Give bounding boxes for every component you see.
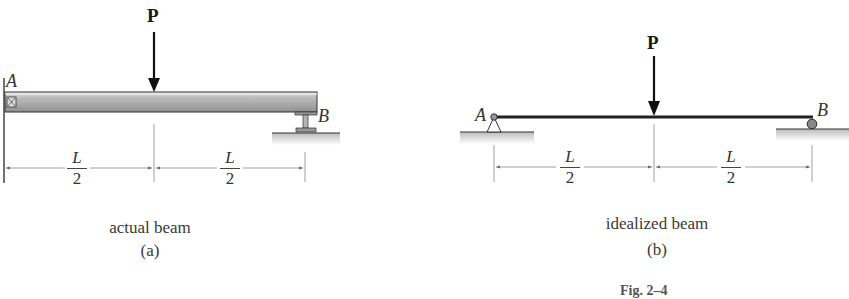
fraction-denominator: 2 bbox=[65, 170, 89, 188]
fraction-numerator: L bbox=[65, 149, 89, 167]
load-arrow-head-icon-b bbox=[648, 101, 660, 116]
panel-b-idealized-beam bbox=[460, 56, 849, 182]
dimension-fraction-a-right: L 2 bbox=[218, 149, 242, 188]
ground-shadow-left bbox=[460, 132, 534, 144]
i-beam-support-icon bbox=[295, 112, 317, 132]
dimension-fraction-b-left: L 2 bbox=[558, 148, 582, 187]
fraction-numerator: L bbox=[218, 149, 242, 167]
dimension-fraction-a-left: L 2 bbox=[65, 149, 89, 188]
caption-b: idealized beam bbox=[557, 214, 757, 234]
ground-shadow bbox=[272, 133, 340, 145]
point-a-label-a: A bbox=[6, 71, 17, 92]
pin-joint-icon bbox=[491, 114, 497, 120]
figure-label: Fig. 2–4 bbox=[620, 283, 667, 299]
dimension-fraction-b-right: L 2 bbox=[719, 148, 743, 187]
fraction-denominator: 2 bbox=[558, 169, 582, 187]
load-arrow-head-icon bbox=[148, 78, 160, 92]
point-a-label-b: A bbox=[475, 105, 486, 126]
fraction-numerator: L bbox=[558, 148, 582, 166]
sublabel-b: (b) bbox=[557, 240, 757, 260]
roller-support-icon bbox=[807, 119, 817, 129]
ground-shadow-right bbox=[776, 129, 849, 141]
load-label-a: P bbox=[147, 5, 159, 27]
fraction-numerator: L bbox=[719, 148, 743, 166]
point-b-label-a: B bbox=[318, 106, 329, 127]
fraction-denominator: 2 bbox=[218, 170, 242, 188]
fraction-denominator: 2 bbox=[719, 169, 743, 187]
actual-beam-body bbox=[5, 92, 317, 112]
point-b-label-b: B bbox=[817, 100, 828, 121]
panel-a-actual-beam bbox=[4, 32, 340, 183]
caption-a: actual beam bbox=[50, 218, 250, 238]
sublabel-a: (a) bbox=[50, 241, 250, 261]
load-label-b: P bbox=[647, 32, 659, 54]
